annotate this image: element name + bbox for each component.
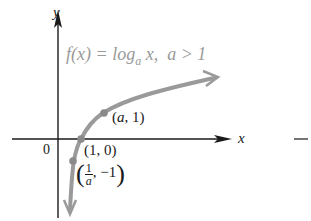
label-a-y: 1 xyxy=(132,109,140,125)
paren-open: ( xyxy=(76,159,85,188)
function-title: f(x) = loga x, a > 1 xyxy=(66,45,206,63)
fraction-numerator: 1 xyxy=(85,162,93,175)
label-neg1: −1 xyxy=(100,164,116,180)
title-base: a xyxy=(135,54,141,68)
label-a-1: (a, 1) xyxy=(112,110,145,125)
origin-label: 0 xyxy=(43,143,50,157)
title-arg: x, xyxy=(141,44,158,64)
fraction-1-over-a: 1a xyxy=(85,162,93,187)
y-axis-label: y xyxy=(53,5,60,20)
fraction-denominator: a xyxy=(85,175,93,187)
title-condition: a > 1 xyxy=(167,44,206,64)
label-a-x: a xyxy=(117,109,125,125)
x-axis-label: x xyxy=(238,131,245,146)
graph-canvas xyxy=(0,0,311,221)
title-func: f(x) = log xyxy=(66,44,135,64)
paren-close: ) xyxy=(116,159,125,188)
label-1-0: (1, 0) xyxy=(84,143,117,158)
label-inv-a-neg1: (1a, −1) xyxy=(76,161,125,187)
point-a-1 xyxy=(100,109,108,117)
